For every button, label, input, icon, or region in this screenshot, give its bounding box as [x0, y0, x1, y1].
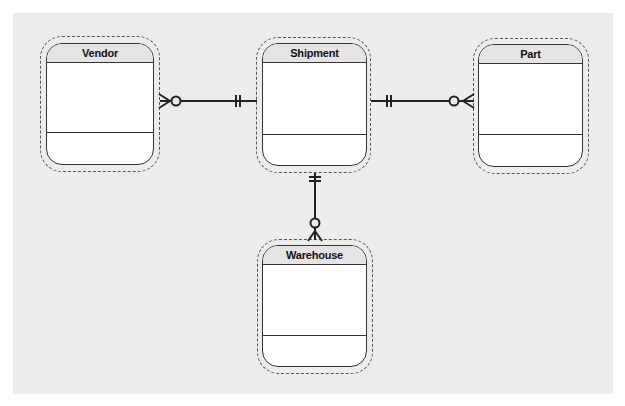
- shipment-entity-divider: [263, 134, 366, 135]
- part-entity[interactable]: Part: [478, 44, 583, 167]
- shipment-entity-title: Shipment: [263, 44, 366, 63]
- vendor-entity-title: Vendor: [47, 44, 153, 63]
- vendor-entity-divider: [47, 132, 153, 133]
- vendor-entity[interactable]: Vendor: [46, 43, 154, 165]
- part-entity-divider: [479, 134, 582, 135]
- warehouse-entity-divider: [263, 335, 366, 336]
- part-entity-title: Part: [479, 45, 582, 64]
- warehouse-entity-title: Warehouse: [263, 246, 366, 265]
- shipment-entity[interactable]: Shipment: [262, 43, 367, 166]
- warehouse-entity[interactable]: Warehouse: [262, 245, 367, 367]
